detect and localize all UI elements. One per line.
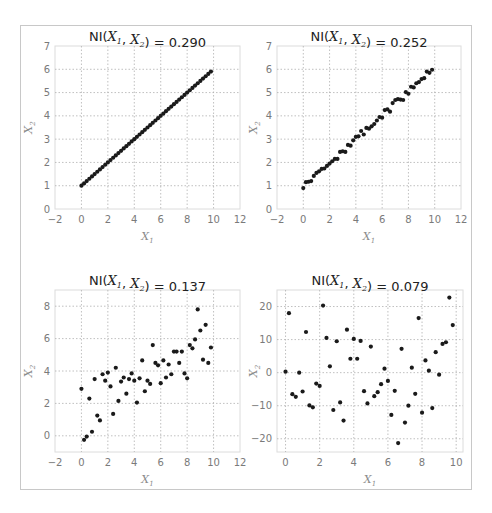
data-point — [145, 379, 149, 383]
data-point — [169, 372, 173, 376]
data-point — [95, 413, 99, 417]
x-tick-label: 0 — [78, 214, 84, 225]
data-point — [359, 339, 363, 343]
data-point — [122, 375, 126, 379]
x-tick-label: 2 — [105, 457, 111, 468]
y-tick-label: 0 — [266, 204, 272, 215]
x-tick-label: 8 — [184, 214, 190, 225]
y-tick-label: 1 — [44, 180, 50, 191]
data-point — [318, 384, 322, 388]
data-point — [304, 330, 308, 334]
data-point — [355, 357, 359, 361]
x-tick-label: 0 — [282, 457, 288, 468]
y-tick-label: 6 — [44, 333, 50, 344]
y-tick-label: 4 — [44, 366, 50, 377]
data-point — [177, 361, 181, 365]
data-point — [422, 76, 426, 80]
data-point — [114, 366, 118, 370]
data-point — [98, 418, 102, 422]
x-tick-label: 10 — [207, 457, 220, 468]
data-point — [93, 377, 97, 381]
x-tick-label: 4 — [351, 457, 357, 468]
data-point — [420, 411, 424, 415]
data-point — [430, 406, 434, 410]
data-point — [161, 358, 165, 362]
data-point — [167, 362, 171, 366]
data-point — [434, 350, 438, 354]
data-point — [331, 408, 335, 412]
x-tick-label: 12 — [455, 214, 468, 225]
data-point — [79, 387, 83, 391]
data-point — [380, 116, 384, 120]
data-point — [143, 389, 147, 393]
data-point — [106, 371, 110, 375]
data-point — [388, 110, 392, 114]
data-point — [294, 395, 298, 399]
data-point — [372, 122, 376, 126]
y-tick-label: 2 — [266, 157, 272, 168]
data-point — [413, 392, 417, 396]
data-point — [444, 340, 448, 344]
data-point — [311, 405, 315, 409]
data-point — [103, 379, 107, 383]
data-point — [135, 400, 139, 404]
data-point — [209, 70, 213, 74]
data-point — [321, 303, 325, 307]
x-tick-label: −2 — [270, 214, 285, 225]
data-point — [399, 347, 403, 351]
data-point — [180, 349, 184, 353]
y-tick-label: 7 — [44, 41, 50, 52]
y-tick-label: 10 — [259, 334, 272, 345]
data-point — [188, 343, 192, 347]
x-tick-label: 0 — [78, 457, 84, 468]
data-point — [132, 379, 136, 383]
y-tick-label: 3 — [266, 134, 272, 145]
data-point — [156, 363, 160, 367]
y-tick-label: 0 — [44, 204, 50, 215]
data-point — [352, 337, 356, 341]
data-point — [127, 377, 131, 381]
data-point — [406, 92, 410, 96]
data-point — [351, 138, 355, 142]
data-point — [206, 361, 210, 365]
y-tick-label: 6 — [266, 64, 272, 75]
data-point — [343, 150, 347, 154]
y-tick-label: 0 — [44, 430, 50, 441]
data-point — [365, 401, 369, 405]
data-point — [338, 400, 342, 404]
data-point — [301, 186, 305, 190]
x-tick-label: 4 — [131, 214, 137, 225]
data-point — [119, 379, 123, 383]
data-point — [190, 346, 194, 350]
data-point — [379, 382, 383, 386]
data-point — [328, 364, 332, 368]
data-point — [148, 382, 152, 386]
data-point — [124, 392, 128, 396]
x-tick-label: 4 — [131, 457, 137, 468]
data-point — [300, 389, 304, 393]
y-tick-label: 6 — [44, 64, 50, 75]
data-point — [196, 307, 200, 311]
data-point — [362, 389, 366, 393]
data-point — [430, 68, 434, 72]
data-point — [82, 438, 86, 442]
data-point — [151, 343, 155, 347]
data-point — [297, 371, 301, 375]
data-point — [447, 296, 451, 300]
y-tick-label: 5 — [266, 87, 272, 98]
data-point — [403, 420, 407, 424]
data-point — [108, 384, 112, 388]
x-tick-label: 10 — [207, 214, 220, 225]
data-point — [356, 134, 360, 138]
data-point — [287, 311, 291, 315]
data-point — [87, 396, 91, 400]
data-point — [412, 85, 416, 89]
data-point — [185, 376, 189, 380]
data-point — [100, 372, 104, 376]
data-point — [427, 369, 431, 373]
data-point — [85, 435, 89, 439]
data-point — [372, 394, 376, 398]
data-point — [359, 129, 363, 133]
y-tick-label: 4 — [44, 110, 50, 121]
data-point — [417, 316, 421, 320]
